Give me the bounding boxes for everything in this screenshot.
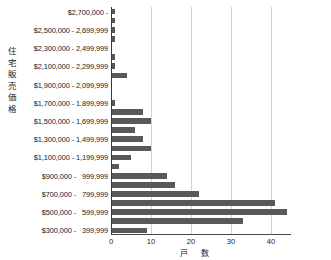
y-axis-tick-labels: $2,700,000 -$2,500,000 - 2,699,999$2,300… [18,7,108,235]
bar-chart: 住宅販売価格 $2,700,000 -$2,500,000 - 2,699,99… [0,0,331,260]
bar [111,109,143,115]
plot-area [111,7,291,235]
bar [111,173,167,179]
bar [111,146,151,152]
y-axis-tick-label: $1,100,000 - 1,199,999 [34,153,108,162]
bar [111,191,199,197]
bar [111,228,147,234]
y-axis-title: 住宅販売価格 [6,46,18,116]
y-axis-tick-label: $1,700,000 - 1,899,999 [34,98,108,107]
x-axis-tick-label: 20 [187,237,195,246]
bar [111,155,131,161]
bar [111,200,275,206]
bar [111,218,243,224]
y-axis-title-char: 宅 [6,58,18,70]
y-axis-tick-label: $1,900,000 - 2,099,999 [34,80,108,89]
x-axis-line [111,234,291,235]
y-axis-tick-label: $1,500,000 - 1,699,999 [34,117,108,126]
y-axis-title-char: 価 [6,92,18,104]
x-axis-title: 戸 数 [111,247,281,258]
y-axis-tick-label: $2,700,000 - [68,7,108,16]
y-axis-tick-label: $1,300,000 - 1,499,999 [34,135,108,144]
x-axis-tick-label: 30 [227,237,235,246]
bar-series [111,7,291,235]
y-axis-tick-label: $2,500,000 - 2,699,999 [34,25,108,34]
y-axis-title-char: 格 [6,104,18,116]
bar [111,182,175,188]
bar [111,136,143,142]
x-axis-tick-label: 10 [147,237,155,246]
y-axis-tick-label: $500,000 - 599,999 [42,208,108,217]
y-axis-tick-label: $300,000 - 399,999 [42,226,108,235]
y-axis-tick-label: $900,000 - 999,999 [42,171,108,180]
x-axis-tick-label: 40 [267,237,275,246]
y-axis-title-char: 販 [6,69,18,81]
y-axis-tick-label: $2,300,000 - 2,499,999 [34,44,108,53]
bar [111,73,127,79]
y-axis-title-char: 売 [6,81,18,93]
bar [111,127,135,133]
y-axis-tick-label: $2,100,000 - 2,299,999 [34,62,108,71]
y-axis-title-char: 住 [6,46,18,58]
y-axis-line [111,7,112,235]
x-axis-tick-label: 0 [109,237,113,246]
bar [111,209,287,215]
y-axis-tick-label: $700,000 - 799,999 [42,189,108,198]
bar [111,118,151,124]
